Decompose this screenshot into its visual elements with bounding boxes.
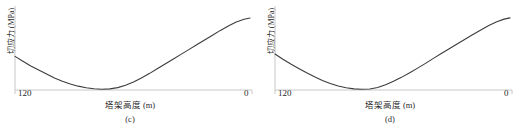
chart-panel-c: 切应力 (MPa) 120 0 塔架高度 (m) (c) <box>0 0 260 136</box>
figure-row: 切应力 (MPa) 120 0 塔架高度 (m) (c) 切应力 (MPa) <box>0 0 520 136</box>
x-tick-label-left-c: 120 <box>18 88 32 98</box>
data-curve-c <box>15 18 250 89</box>
x-tick-label-right-d: 0 <box>504 88 509 98</box>
plot-svg-c <box>14 6 254 98</box>
x-axis-label-c: 塔架高度 (m) <box>0 100 260 111</box>
chart-panel-d: 切应力 (MPa) 120 0 塔架高度 (m) (d) <box>260 0 520 136</box>
plot-area-c: 切应力 (MPa) 120 0 <box>0 0 260 100</box>
x-axis-label-d: 塔架高度 (m) <box>260 100 520 111</box>
panel-caption-d: (d) <box>260 114 520 125</box>
x-tick-label-right-c: 0 <box>244 88 249 98</box>
x-tick-label-left-d: 120 <box>278 88 292 98</box>
plot-svg-d <box>274 6 514 98</box>
panel-caption-c: (c) <box>0 114 260 125</box>
plot-area-d: 切应力 (MPa) 120 0 <box>260 0 520 100</box>
data-curve-d <box>275 18 510 89</box>
